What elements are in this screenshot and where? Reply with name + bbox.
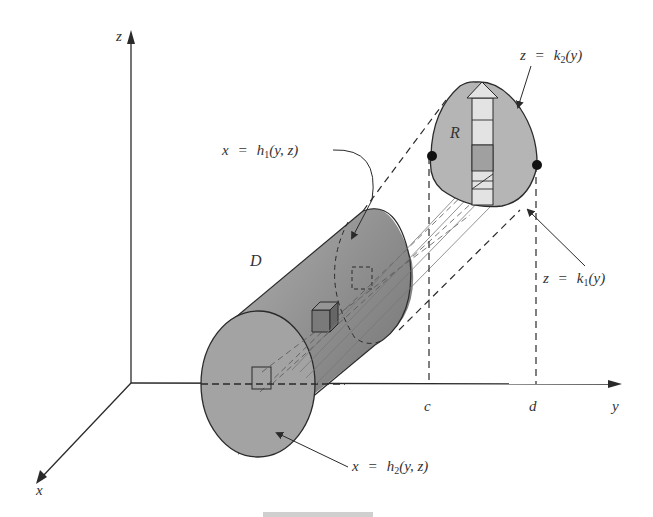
y-axis-label: y (610, 398, 619, 414)
c-tick-label: c (424, 398, 431, 414)
z-axis-label: z (115, 28, 122, 44)
y-axis-arrow-icon (608, 380, 622, 388)
region-R (427, 82, 542, 207)
solid-D-label: D (249, 252, 262, 269)
vertical-strip (467, 82, 498, 205)
type-I-region-diagram: z y x c d D R x = h1(y, z) z = k2(y) z =… (0, 0, 653, 517)
caption-remnant (263, 512, 373, 517)
equation-h1: x = h1(y, z) (221, 142, 298, 160)
solid-D (201, 188, 475, 457)
z-axis-arrow-icon (127, 30, 135, 44)
x-axis-label: x (35, 482, 43, 498)
point-c (427, 151, 437, 161)
x-axis (42, 383, 131, 477)
cube-middle (312, 302, 338, 332)
equation-k1: z = k1(y) (542, 270, 605, 288)
equation-k2: z = k2(y) (519, 47, 582, 65)
equation-h2: x = h2(y, z) (351, 458, 428, 476)
point-d (532, 160, 542, 170)
figure-canvas: z y x c d D R x = h1(y, z) z = k2(y) z =… (0, 0, 653, 517)
region-R-label: R (449, 124, 460, 141)
d-tick-label: d (529, 398, 537, 414)
